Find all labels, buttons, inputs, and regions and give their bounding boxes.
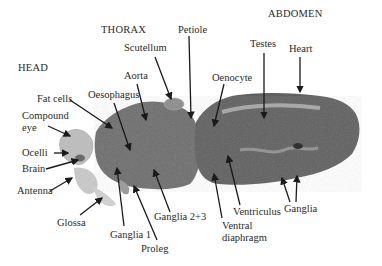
label-ocelli: Ocelli [22,147,48,159]
label-testes: Testes [250,38,276,50]
label-ventral-diaphragm: Ventral diaphragm [222,220,267,244]
arrow-glossa [80,198,102,215]
label-ventriculus: Ventriculus [233,206,281,218]
label-brain: Brain [22,163,45,175]
arrow-scutellum [155,57,171,99]
label-petiole: Petiole [178,24,207,36]
label-oenocyte: Oenocyte [212,72,252,84]
label-compound-eye: Compound eye [22,110,69,134]
arrow-brain [46,160,78,169]
arrow-antenna [50,178,72,191]
section-thorax-label: THORAX [101,24,146,36]
micrograph-figure: HEAD THORAX ABDOMEN Scutellum Petiole Ao… [0,0,382,266]
label-proleg: Proleg [141,243,168,255]
label-antenna: Antenna [17,185,53,197]
label-oesophagus: Oesophagus [88,89,139,101]
label-ganglia: Ganglia [284,203,317,215]
label-scutellum: Scutellum [124,42,167,54]
label-glossa: Glossa [57,217,86,229]
label-fat-cells: Fat cells [37,93,72,105]
tissue-texture [94,96,362,192]
label-heart: Heart [289,43,312,55]
label-ganglia-2-3: Ganglia 2+3 [154,211,206,223]
label-aorta: Aorta [124,70,148,82]
section-abdomen-label: ABDOMEN [268,8,323,20]
section-head-label: HEAD [18,62,48,74]
label-ganglia-1: Ganglia 1 [110,229,151,241]
